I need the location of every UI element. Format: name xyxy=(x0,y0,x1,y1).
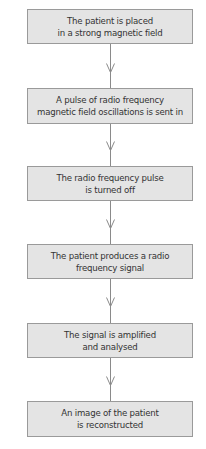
step-text-line: The patient produces a radio xyxy=(51,250,170,262)
step-text-line: in a strong magnetic field xyxy=(57,27,162,39)
arrow-down-icon xyxy=(106,376,115,386)
arrow-down-icon xyxy=(106,297,115,307)
step-text-line: An image of the patient xyxy=(61,407,158,419)
step-box-patient-placed: The patient is placed in a strong magnet… xyxy=(27,9,193,44)
step-text-line: The radio frequency pulse xyxy=(56,172,163,184)
step-box-image-reconstructed: An image of the patient is reconstructed xyxy=(27,401,193,437)
step-text-line: magnetic field oscillations is sent in xyxy=(37,106,183,118)
step-text-line: A pulse of radio frequency xyxy=(37,94,183,106)
mri-process-flowchart: The patient is placed in a strong magnet… xyxy=(0,0,206,449)
step-box-signal-amplified: The signal is amplified and analysed xyxy=(27,323,193,358)
step-box-rf-pulse-sent: A pulse of radio frequency magnetic fiel… xyxy=(27,88,193,124)
arrow-down-icon xyxy=(106,63,115,73)
arrow-down-icon xyxy=(106,219,115,229)
step-box-rf-pulse-off: The radio frequency pulse is turned off xyxy=(27,166,193,201)
step-text-line: is turned off xyxy=(56,184,163,196)
arrow-down-icon xyxy=(106,141,115,151)
step-text-line: The signal is amplified xyxy=(64,329,156,341)
step-text-line: is reconstructed xyxy=(61,419,158,431)
step-box-patient-produces-signal: The patient produces a radio frequency s… xyxy=(27,244,193,279)
step-text-line: and analysed xyxy=(64,341,156,353)
step-text-line: frequency signal xyxy=(51,262,170,274)
step-text-line: The patient is placed xyxy=(57,15,162,27)
